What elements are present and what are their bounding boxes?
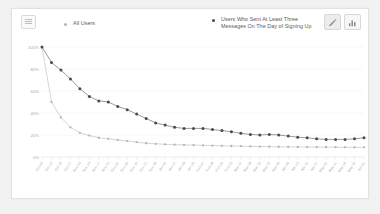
legend-marker-icon <box>64 23 67 26</box>
legend-marker-icon <box>212 19 215 22</box>
x-axis-tick-label: Jan 19 <box>177 161 186 172</box>
series-data-point[interactable] <box>249 133 252 136</box>
series-data-point[interactable] <box>202 127 205 130</box>
series-data-point[interactable] <box>107 101 110 104</box>
series-data-point[interactable] <box>268 133 271 136</box>
legend-item-all-users[interactable]: All Users <box>64 20 95 27</box>
series-data-point[interactable] <box>145 117 148 120</box>
hamburger-glyph <box>25 19 32 25</box>
x-axis-tick-label: Apr 13 <box>291 161 300 172</box>
series-data-point[interactable] <box>353 137 356 140</box>
series-data-point[interactable] <box>277 134 280 137</box>
series-data-point[interactable] <box>287 146 289 148</box>
legend-item-three-messages[interactable]: Users Who Sent At Least Three Messages O… <box>212 16 312 31</box>
x-axis-tick-label: Dec 08 <box>120 161 130 172</box>
x-axis-tick-label: May 25 <box>347 161 357 173</box>
chart-card: All Users Users Who Sent At Least Three … <box>11 8 369 199</box>
x-axis-tick-label: Nov 17 <box>91 161 101 172</box>
series-data-point[interactable] <box>363 136 366 139</box>
y-axis-tick-label: 60% <box>31 89 40 94</box>
series-data-point[interactable] <box>155 143 157 145</box>
series-data-point[interactable] <box>154 121 157 124</box>
chart-screenshot-root: All Users Users Who Sent At Least Three … <box>0 0 380 214</box>
legend-label: All Users <box>73 20 95 27</box>
series-data-point[interactable] <box>353 146 355 148</box>
series-data-point[interactable] <box>88 95 91 98</box>
series-data-point[interactable] <box>325 146 327 148</box>
x-axis-tick-label: Nov 24 <box>101 161 111 172</box>
series-data-point[interactable] <box>221 145 223 147</box>
series-data-point[interactable] <box>173 144 175 146</box>
x-axis-tick-label: Jan 12 <box>167 161 176 172</box>
series-data-point[interactable] <box>249 145 251 147</box>
series-data-point[interactable] <box>107 138 109 140</box>
series-data-point[interactable] <box>135 113 138 116</box>
series-data-point[interactable] <box>117 139 119 141</box>
series-data-point[interactable] <box>259 145 261 147</box>
series-data-point[interactable] <box>97 99 100 102</box>
x-axis-tick-label: Jan 26 <box>186 161 195 172</box>
x-axis-tick-label: Feb 09 <box>205 161 215 172</box>
series-data-point[interactable] <box>126 108 129 111</box>
bar-chart-icon[interactable] <box>344 14 361 30</box>
x-axis-tick-label: Oct 06 <box>35 161 44 172</box>
series-data-point[interactable] <box>230 130 233 133</box>
series-data-point[interactable] <box>220 129 223 132</box>
series-data-point[interactable] <box>230 145 232 147</box>
series-data-point[interactable] <box>136 141 138 143</box>
series-data-point[interactable] <box>164 143 166 145</box>
series-data-point[interactable] <box>334 146 336 148</box>
series-data-point[interactable] <box>287 135 290 138</box>
series-data-point[interactable] <box>363 146 365 148</box>
series-data-point[interactable] <box>164 124 167 127</box>
x-axis-tick-label: Mar 23 <box>262 161 272 172</box>
series-data-point[interactable] <box>59 69 62 72</box>
series-data-point[interactable] <box>69 77 72 80</box>
series-data-point[interactable] <box>344 146 346 148</box>
series-data-point[interactable] <box>183 127 186 130</box>
series-data-point[interactable] <box>344 138 347 141</box>
series-data-point[interactable] <box>306 136 309 139</box>
series-data-point[interactable] <box>258 134 261 137</box>
series-data-point[interactable] <box>41 46 44 49</box>
series-data-point[interactable] <box>297 146 299 148</box>
series-data-point[interactable] <box>79 132 81 134</box>
series-data-point[interactable] <box>239 132 242 135</box>
series-data-point[interactable] <box>202 144 204 146</box>
series-data-point[interactable] <box>296 136 299 139</box>
series-data-point[interactable] <box>98 137 100 139</box>
series-data-point[interactable] <box>334 138 337 141</box>
x-axis-tick-label: Feb 23 <box>224 161 234 172</box>
series-data-point[interactable] <box>173 126 176 129</box>
series-data-point[interactable] <box>50 101 52 103</box>
series-data-point[interactable] <box>192 144 194 146</box>
y-axis-tick-label: 20% <box>31 133 40 138</box>
series-data-point[interactable] <box>211 144 213 146</box>
series-data-point[interactable] <box>126 140 128 142</box>
series-data-point[interactable] <box>315 137 318 140</box>
series-data-point[interactable] <box>306 146 308 148</box>
x-axis-tick-label: Dec 22 <box>139 161 149 172</box>
series-data-point[interactable] <box>192 127 195 130</box>
series-data-point[interactable] <box>183 144 185 146</box>
series-data-point[interactable] <box>116 105 119 108</box>
series-data-point[interactable] <box>240 145 242 147</box>
hamburger-icon[interactable] <box>21 15 36 29</box>
series-data-point[interactable] <box>145 142 147 144</box>
y-axis-tick-label: 0% <box>33 155 39 160</box>
series-data-point[interactable] <box>78 87 81 90</box>
x-axis-tick-label: Apr 20 <box>300 161 309 172</box>
series-data-point[interactable] <box>60 116 62 118</box>
series-data-point[interactable] <box>50 61 53 64</box>
chart-plot-area: 0%20%40%60%80%100%Oct 06Oct 13Oct 20Oct … <box>12 39 370 199</box>
x-axis-tick-label: Mar 30 <box>271 161 281 172</box>
x-axis-tick-label: Apr 06 <box>281 161 290 172</box>
series-data-point[interactable] <box>88 134 90 136</box>
series-data-point[interactable] <box>325 138 328 141</box>
series-data-point[interactable] <box>211 128 214 131</box>
x-axis-tick-label: May 18 <box>337 161 347 173</box>
series-data-point[interactable] <box>316 146 318 148</box>
series-data-point[interactable] <box>69 126 71 128</box>
series-data-point[interactable] <box>268 146 270 148</box>
series-data-point[interactable] <box>278 146 280 148</box>
